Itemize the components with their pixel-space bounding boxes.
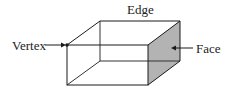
face-label: Face [196,42,221,55]
vertex-dot [65,43,69,47]
vertex-label: Vertex [12,39,46,52]
edge-label: Edge [127,3,154,16]
prism-diagram: Edge Vertex Face [0,0,232,89]
vertex-arrow [45,43,69,48]
shaded-face [148,21,180,85]
